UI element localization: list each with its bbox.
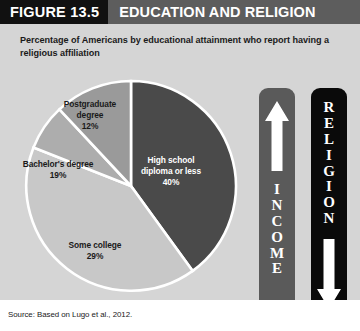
- income-label-letter: O: [271, 230, 283, 246]
- income-label-letter: I: [274, 182, 280, 198]
- religion-label-letter: L: [324, 132, 334, 148]
- figure-body: Percentage of Americans by educational a…: [0, 24, 360, 300]
- up-arrow-icon: [264, 99, 290, 173]
- income-label: INCOME: [270, 182, 284, 277]
- source-note: Source: Based on Lugo et al., 2012.: [8, 310, 132, 319]
- religion-label-letter: O: [323, 195, 335, 211]
- income-label-letter: C: [272, 214, 283, 230]
- figure-footer: Source: Based on Lugo et al., 2012.: [0, 300, 360, 331]
- figure-header: FIGURE 13.5 EDUCATION AND RELIGION: [0, 0, 360, 24]
- religion-label-letter: I: [326, 148, 332, 164]
- religion-label-letter: G: [323, 164, 335, 180]
- religion-label-letter: N: [324, 211, 335, 227]
- income-label-letter: N: [272, 198, 283, 214]
- figure-subtitle: Percentage of Americans by educational a…: [20, 34, 332, 59]
- religion-label-letter: E: [324, 116, 334, 132]
- pie-chart: Postgraduate degree 12% Bachelor's degre…: [22, 77, 240, 295]
- religion-indicator-bar: RELIGION: [311, 88, 347, 319]
- religion-label-letter: R: [324, 100, 335, 116]
- religion-label: RELIGION: [323, 100, 335, 227]
- figure-title: EDUCATION AND RELIGION: [108, 0, 315, 24]
- income-label-letter: M: [270, 246, 284, 262]
- income-label-letter: E: [272, 261, 282, 277]
- figure-container: FIGURE 13.5 EDUCATION AND RELIGION Perce…: [0, 0, 360, 331]
- income-indicator-bar: INCOME: [259, 88, 295, 319]
- pie-chart-svg: [22, 77, 240, 295]
- figure-number: FIGURE 13.5: [0, 0, 108, 24]
- religion-label-letter: I: [326, 179, 332, 195]
